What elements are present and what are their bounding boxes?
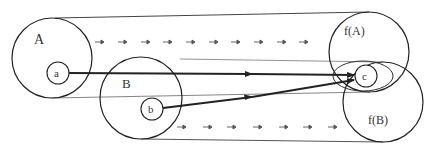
flow-arrow-icon bbox=[231, 40, 240, 44]
flow-arrow-icon bbox=[279, 125, 288, 129]
flow-arrow-icon bbox=[209, 40, 218, 44]
element-c-label: c bbox=[362, 70, 367, 82]
set-B: B bbox=[100, 57, 182, 139]
flow-arrows-bottom bbox=[177, 125, 337, 129]
element-c: c bbox=[355, 65, 377, 87]
flow-arrow-icon bbox=[163, 40, 172, 44]
flow-arrow-icon bbox=[118, 40, 127, 44]
element-b-label: b bbox=[148, 103, 154, 115]
flow-arrow-icon bbox=[177, 125, 186, 129]
flow-arrow-icon bbox=[277, 40, 286, 44]
set-fB-label: f(B) bbox=[368, 113, 388, 127]
flow-arrow-icon bbox=[95, 40, 104, 44]
tube-B-to-fB bbox=[141, 59, 383, 142]
element-b: b bbox=[141, 98, 163, 120]
mapping-a-to-c bbox=[69, 71, 354, 77]
set-A-label: A bbox=[34, 32, 45, 47]
flow-arrow-icon bbox=[203, 125, 212, 129]
set-fA-label: f(A) bbox=[344, 24, 365, 38]
flow-arrow-icon bbox=[303, 125, 312, 129]
flow-arrow-icon bbox=[299, 40, 308, 44]
flow-arrow-icon bbox=[141, 40, 150, 44]
mid-arrowhead-icon bbox=[245, 71, 253, 77]
flow-arrows-top bbox=[95, 40, 308, 44]
set-A-circle bbox=[12, 18, 92, 98]
element-a-label: a bbox=[54, 67, 59, 79]
flow-arrow-icon bbox=[328, 125, 337, 129]
flow-arrow-icon bbox=[253, 125, 262, 129]
set-A: A bbox=[12, 18, 92, 98]
function-mapping-diagram: A B f(A) f(B) a b c bbox=[0, 0, 424, 150]
set-B-circle bbox=[100, 57, 182, 139]
set-B-label: B bbox=[122, 76, 131, 91]
flow-arrow-icon bbox=[254, 40, 263, 44]
flow-arrow-icon bbox=[227, 125, 236, 129]
element-a: a bbox=[47, 62, 69, 84]
flow-arrow-icon bbox=[186, 40, 195, 44]
